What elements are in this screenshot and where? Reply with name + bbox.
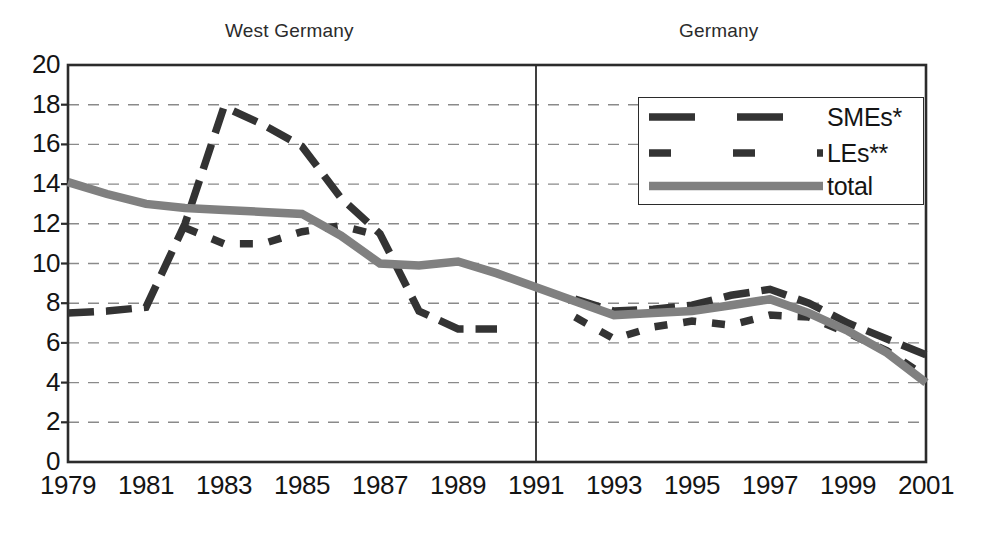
legend-item-smes: SMEs* (639, 99, 923, 135)
chart-legend: SMEs* LEs** total (638, 97, 924, 205)
plot-area (0, 0, 982, 536)
legend-swatch-les (645, 144, 827, 162)
legend-label-smes: SMEs* (827, 105, 902, 130)
series-line (68, 182, 926, 383)
legend-label-les: LEs** (827, 141, 888, 166)
series-line (68, 107, 497, 329)
chart-figure: West Germany Germany 02468101214161820 1… (0, 0, 982, 536)
legend-swatch-smes (645, 108, 827, 126)
legend-item-total: total (639, 168, 923, 204)
legend-swatch-total (645, 177, 827, 195)
legend-item-les: LEs** (639, 135, 923, 171)
legend-label-total: total (827, 174, 873, 199)
